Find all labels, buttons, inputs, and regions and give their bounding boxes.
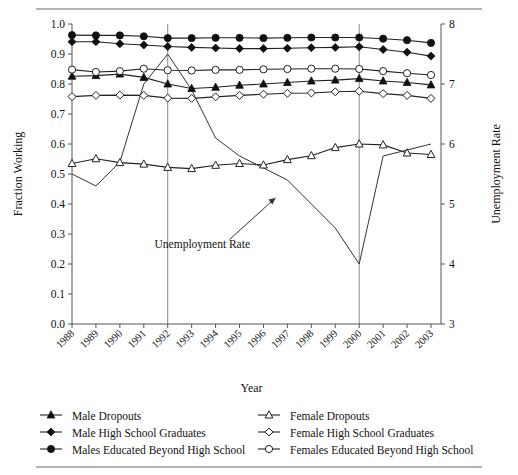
data-point-marker [212,66,219,73]
y-tick-label: 0.2 [51,258,66,270]
annotation-unemployment-rate: Unemployment Rate [155,238,251,251]
data-point-marker [355,87,363,95]
data-point-marker [355,74,363,81]
data-point-marker [140,41,148,49]
x-tick-label: 1994 [197,327,220,350]
data-point-marker [379,46,387,54]
data-point-marker [331,88,339,96]
data-point-marker [47,445,54,452]
data-point-marker [92,155,100,162]
data-point-marker [379,90,387,98]
data-point-marker [140,33,147,40]
data-point-marker [140,65,147,72]
series-line-unemployment-rate [72,54,431,264]
x-tick-label: 1993 [173,328,196,351]
series-line-female-high-school-graduates [72,91,431,98]
y-tick-label: 0.8 [51,78,66,90]
data-point-marker [260,66,267,73]
y2-tick-label: 6 [449,138,455,150]
chart-legend: Male DropoutsMale High School GraduatesM… [40,410,473,457]
legend-label: Male Dropouts [72,410,142,423]
data-point-marker [284,34,291,41]
y-tick-label: 0.3 [51,228,66,240]
data-point-marker [403,37,410,44]
data-point-marker [355,43,363,51]
data-point-marker [164,43,172,51]
x-tick-label: 1991 [126,328,149,351]
data-point-marker [236,34,243,41]
legend-item: Males Educated Beyond High School [40,444,245,457]
data-point-marker [259,90,267,98]
data-point-marker [92,68,99,75]
x-tick-label: 1995 [221,328,244,351]
legend-item: Females Educated Beyond High School [258,444,473,457]
x-axis-ticks: 1988198919901991199219931994199519961997… [54,324,436,350]
data-point-marker [403,91,411,99]
data-point-marker [188,67,195,74]
x-tick-label: 1998 [293,328,316,351]
data-point-marker [427,52,435,60]
legend-label: Female High School Graduates [290,427,435,440]
series-lines [72,35,431,264]
data-point-marker [283,89,291,97]
legend-label: Females Educated Beyond High School [290,444,473,457]
chart-svg: 0.00.10.20.30.40.50.60.70.80.91.0 345678… [0,0,518,475]
data-point-marker [331,43,339,51]
y2-tick-label: 8 [449,18,455,30]
series-line-females-educated-beyond-high-school [72,69,431,75]
series-line-female-dropouts [72,144,431,169]
data-point-marker [265,445,272,452]
data-point-marker [47,411,55,418]
data-point-marker [188,43,196,51]
x-tick-label: 1988 [54,328,77,351]
x-tick-label: 1999 [317,328,340,351]
data-point-marker [116,91,124,99]
annotation-arrow-line [230,198,276,240]
data-point-marker [332,65,339,72]
data-point-marker [307,89,315,97]
data-point-marker [356,65,363,72]
data-point-marker [427,71,434,78]
x-axis-title: Year [240,381,262,395]
y-axis-title: Fraction Working [11,132,25,216]
y-tick-label: 0.7 [51,108,66,120]
x-tick-label: 1990 [102,328,125,351]
data-point-marker [355,140,363,147]
legend-label: Males Educated Beyond High School [72,444,245,457]
data-point-marker [212,34,219,41]
legend-item: Male Dropouts [40,410,142,423]
data-point-marker [260,35,267,42]
chart-annotations: Unemployment Rate [155,198,276,251]
data-point-marker [212,44,220,52]
data-point-marker [68,31,75,38]
data-point-marker [307,44,315,52]
data-point-marker [403,48,411,56]
legend-item: Male High School Graduates [40,427,206,440]
y-tick-label: 0.5 [51,168,66,180]
y2-axis-title: Unemployment Rate [489,124,503,224]
data-point-marker [188,35,195,42]
data-point-marker [308,34,315,41]
data-point-marker [164,94,172,102]
x-tick-label: 1989 [78,328,101,351]
series-line-males-educated-beyond-high-school [72,35,431,43]
data-point-marker [164,67,171,74]
x-tick-label: 1997 [269,328,292,351]
y-tick-label: 0.4 [51,198,66,210]
x-tick-label: 1996 [245,328,268,351]
data-point-marker [212,93,220,101]
legend-label: Male High School Graduates [72,427,206,440]
data-point-marker [236,45,244,53]
data-point-marker [236,91,244,99]
data-point-marker [236,159,244,166]
data-point-marker [164,35,171,42]
x-tick-label: 2002 [389,328,412,351]
series-line-male-high-school-graduates [72,42,431,56]
data-point-marker [259,45,267,53]
data-point-marker [308,65,315,72]
data-point-marker [380,68,387,75]
legend-item: Female High School Graduates [258,427,435,440]
y-tick-label: 0.1 [51,288,66,300]
series-line-male-dropouts [72,74,431,88]
y2-tick-label: 5 [449,198,455,210]
